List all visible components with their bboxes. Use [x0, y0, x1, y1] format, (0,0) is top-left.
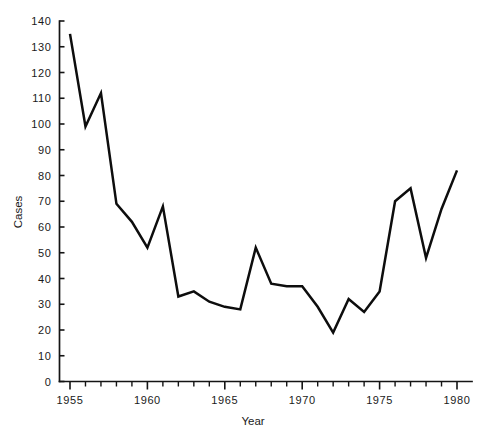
y-tick-label: 70	[38, 195, 51, 207]
x-axis-title: Year	[241, 415, 264, 427]
x-tick-label: 1955	[57, 394, 84, 406]
x-tick-label: 1965	[211, 394, 238, 406]
x-tick-label: 1975	[366, 394, 393, 406]
y-tick-label: 130	[31, 41, 51, 53]
y-tick-label: 10	[38, 350, 51, 362]
y-tick-label: 80	[38, 170, 51, 182]
y-tick-label: 110	[32, 92, 51, 104]
x-tick-label: 1970	[289, 394, 316, 406]
x-tick-label: 1960	[134, 394, 161, 406]
y-tick-label: 120	[31, 67, 51, 79]
y-tick-label: 90	[38, 144, 51, 156]
y-tick-label: 0	[45, 376, 52, 388]
y-tick-label: 100	[31, 118, 51, 130]
y-tick-label: 40	[38, 273, 51, 285]
y-tick-label: 30	[38, 298, 51, 310]
figure-caption	[0, 436, 489, 445]
y-tick-label: 140	[31, 15, 51, 27]
y-tick-label: 50	[38, 247, 51, 259]
chart-figure: 0102030405060708090100110120130140 Cases…	[0, 0, 489, 445]
line-chart: 0102030405060708090100110120130140 Cases…	[0, 0, 489, 445]
y-tick-label: 20	[38, 324, 51, 336]
y-axis-title: Cases	[12, 195, 24, 228]
x-tick-label: 1980	[444, 394, 471, 406]
y-tick-label: 60	[38, 221, 51, 233]
chart-background	[0, 0, 489, 445]
